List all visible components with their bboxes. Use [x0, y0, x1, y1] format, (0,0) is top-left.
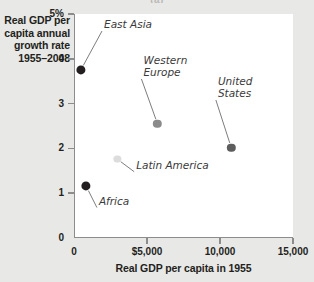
- y-tick-label: 5%: [24, 8, 64, 19]
- y-tick-mark: [68, 58, 74, 60]
- y-tick-label: 1: [24, 187, 64, 198]
- plot-inner: East AsiaWestern EuropeUnited StatesLati…: [75, 14, 293, 237]
- point-label-latin-america: Latin America: [136, 159, 209, 171]
- y-tick-label: 0: [24, 232, 64, 243]
- x-axis-title: Real GDP per capita in 1955: [74, 262, 293, 274]
- figure-caption: (a): [0, 0, 314, 3]
- x-tick-label: 0: [44, 246, 104, 257]
- y-tick-mark: [68, 148, 74, 150]
- y-tick-mark: [68, 103, 74, 105]
- y-tick-label: 4: [24, 53, 64, 64]
- figure-container: (a) Real GDP per capita annual growth ra…: [0, 0, 314, 282]
- x-tick-mark: [219, 238, 221, 244]
- point-label-united-states: United States: [218, 75, 253, 99]
- x-tick-label: 15,000: [263, 246, 314, 257]
- y-tick-mark: [68, 192, 74, 194]
- point-label-africa: Africa: [99, 195, 129, 207]
- point-label-western-europe: Western Europe: [143, 54, 187, 78]
- x-tick-label: 10,000: [190, 246, 250, 257]
- plot-area: East AsiaWestern EuropeUnited StatesLati…: [74, 14, 293, 238]
- y-tick-label: 3: [24, 98, 64, 109]
- x-tick-label: $5,000: [117, 246, 177, 257]
- y-tick-mark: [68, 13, 74, 15]
- point-label-east-asia: East Asia: [104, 18, 152, 30]
- x-tick-mark: [146, 238, 148, 244]
- y-tick-label: 2: [24, 142, 64, 153]
- x-tick-mark: [292, 238, 294, 244]
